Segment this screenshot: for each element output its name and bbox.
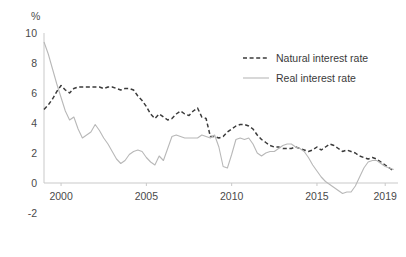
y-tick-label: 10 (25, 27, 37, 39)
legend-label: Natural interest rate (276, 52, 368, 64)
x-tick-label: 2000 (49, 190, 73, 202)
y-tick-label: 8 (31, 57, 37, 69)
y-tick-label: 0 (31, 177, 37, 189)
series-line-real-interest-rate (44, 42, 394, 194)
legend-label: Real interest rate (276, 72, 356, 84)
x-tick-label: 2019 (374, 190, 398, 202)
chart-canvas: -2024681020002005201020152019 Natural in… (0, 0, 406, 257)
y-axis-unit-label: % (31, 10, 40, 22)
x-tick-label: 2005 (135, 190, 159, 202)
series-layer (44, 42, 394, 194)
y-tick-label: 4 (31, 117, 37, 129)
legend-layer: Natural interest rateReal interest rate (243, 52, 368, 84)
y-tick-label: 2 (31, 147, 37, 159)
x-tick-label: 2015 (305, 190, 329, 202)
x-tick-label: 2010 (220, 190, 244, 202)
interest-rate-chart: -2024681020002005201020152019 Natural in… (0, 0, 406, 257)
series-line-natural-interest-rate (44, 86, 394, 172)
y-tick-label: 6 (31, 87, 37, 99)
y-tick-label: -2 (28, 207, 37, 219)
